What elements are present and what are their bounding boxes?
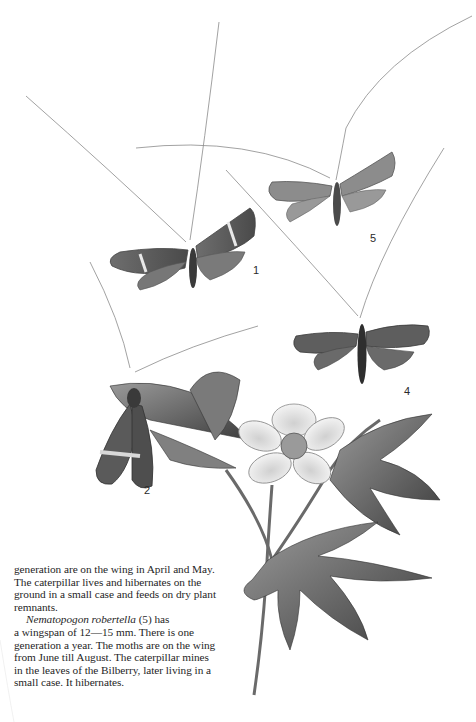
moth-1	[110, 208, 255, 290]
figure-reference: (5) has	[136, 613, 169, 625]
paragraph-2-body: a wingspan of 12—15 mm. There is one gen…	[14, 626, 219, 689]
paragraph-2-lead: Nematopogon robertella (5) has	[14, 613, 219, 626]
figure-label-5: 5	[370, 232, 376, 244]
figure-label-2: 2	[144, 484, 150, 496]
species-name: Nematopogon robertella	[26, 613, 136, 625]
body-text: generation are on the wing in April and …	[14, 563, 219, 689]
paragraph-1: generation are on the wing in April and …	[14, 563, 219, 613]
moth-5	[269, 152, 395, 226]
figure-label-1: 1	[253, 264, 259, 276]
moth-4	[294, 324, 430, 384]
figure-label-4: 4	[404, 385, 410, 397]
